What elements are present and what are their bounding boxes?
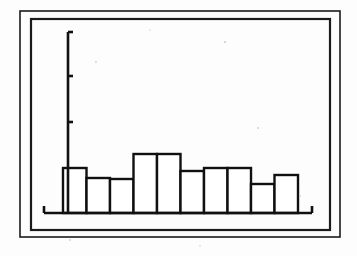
histogram-figure-root — [0, 0, 357, 256]
histogram-bar — [87, 178, 111, 213]
scan-speckle — [69, 239, 71, 241]
scan-speckle — [95, 61, 97, 63]
histogram-bar — [134, 154, 158, 213]
histogram-bar — [228, 168, 252, 213]
histogram-figure-canvas — [0, 0, 357, 256]
histogram-bars-group — [63, 154, 298, 213]
histogram-bar — [251, 184, 275, 213]
scan-speckle — [257, 127, 259, 129]
scan-speckle — [224, 41, 226, 43]
histogram-bar — [275, 175, 299, 213]
histogram-bar — [204, 168, 228, 213]
scan-speckle — [149, 29, 151, 31]
scan-speckle — [199, 245, 201, 247]
histogram-bar — [63, 168, 87, 213]
histogram-bar — [157, 154, 181, 213]
histogram-bar — [110, 179, 134, 213]
scan-speckle — [299, 195, 301, 197]
histogram-bar — [181, 171, 205, 213]
